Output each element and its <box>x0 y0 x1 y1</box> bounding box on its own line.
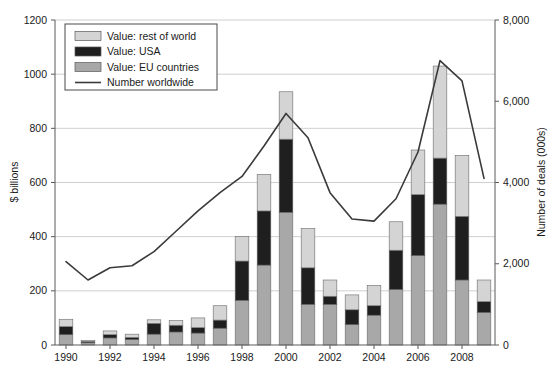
bar-segment <box>389 289 403 345</box>
bar-segment <box>279 212 293 345</box>
bar-segment <box>411 256 425 345</box>
bar-segment <box>367 285 381 305</box>
legend-label: Value: EU countries <box>107 61 199 73</box>
bar-segment <box>235 237 249 261</box>
bar-segment <box>257 211 271 265</box>
bar-segment <box>455 216 469 280</box>
bar-segment <box>389 222 403 250</box>
chart-container: 020040060080010001200 02,0004,0006,0008,… <box>0 0 560 373</box>
y-axis-right-title: Number of deals (000s) <box>535 127 547 237</box>
bar-segment <box>367 315 381 345</box>
legend-swatch <box>75 47 101 56</box>
bar-segment <box>191 318 205 328</box>
legend-swatch <box>75 32 101 41</box>
x-axis-tick-label: 2004 <box>362 351 386 363</box>
bar-segment <box>477 313 491 346</box>
x-axis-tick-label: 2000 <box>274 351 298 363</box>
bar-segment <box>103 335 117 338</box>
bar-segment <box>433 158 447 204</box>
bar-segment <box>169 332 183 345</box>
bar-segment <box>81 340 95 341</box>
bar-segment <box>433 204 447 345</box>
y-axis-left-tick-label: 1000 <box>24 68 48 80</box>
bar-segment <box>345 310 359 325</box>
x-axis-tick-label: 1998 <box>230 351 254 363</box>
x-axis-tick-label: 2002 <box>318 351 342 363</box>
y-axis-right-tick-label: 6,000 <box>503 95 529 107</box>
y-axis-left-tick-label: 0 <box>41 339 47 351</box>
y-axis-right-tick-label: 2,000 <box>503 257 529 269</box>
bar-segment <box>323 296 337 304</box>
legend-label: Number worldwide <box>107 76 194 88</box>
bar-segment <box>125 334 139 337</box>
bar-segment <box>59 327 73 335</box>
bar-segment <box>235 300 249 345</box>
bar-segment <box>213 306 227 320</box>
bar-segment <box>147 323 161 334</box>
bar-segment <box>389 250 403 289</box>
bar-segment <box>301 268 315 305</box>
bar-segment <box>147 320 161 324</box>
mna-stacked-bar-line-chart: 020040060080010001200 02,0004,0006,0008,… <box>0 0 560 373</box>
bar-segment <box>279 139 293 212</box>
y-axis-right-tick-label: 8,000 <box>503 14 529 26</box>
bar-segment <box>345 295 359 310</box>
bar-segment <box>367 306 381 315</box>
bar-segment <box>345 325 359 345</box>
bar-segment <box>213 320 227 328</box>
bar-segment <box>125 340 139 345</box>
x-axis-tick-label: 2006 <box>406 351 430 363</box>
bar-segment <box>191 333 205 345</box>
y-axis-right-tick-label: 4,000 <box>503 176 529 188</box>
x-axis-tick-label: 1994 <box>142 351 166 363</box>
bar-segment <box>323 304 337 345</box>
x-axis-tick-label: 2008 <box>450 351 474 363</box>
bar-segment <box>301 229 315 268</box>
bar-segment <box>213 328 227 345</box>
bar-segment <box>477 302 491 313</box>
chart-legend: Value: rest of worldValue: USAValue: EU … <box>65 24 217 90</box>
bar-segment <box>411 195 425 256</box>
bar-segment <box>257 265 271 345</box>
bar-segment <box>477 280 491 302</box>
bar-segment <box>103 338 117 345</box>
y-axis-left-tick-label: 1200 <box>24 14 48 26</box>
y-axis-left-tick-label: 200 <box>29 284 47 296</box>
y-axis-left-tick-label: 400 <box>29 230 47 242</box>
bar-segment <box>235 261 249 300</box>
y-axis-right-tick-label: 0 <box>503 339 509 351</box>
bar-segment <box>191 328 205 333</box>
bar-segment <box>455 280 469 345</box>
legend-swatch <box>75 63 101 72</box>
bar-segment <box>411 150 425 195</box>
legend-label: Value: USA <box>107 45 161 57</box>
x-axis-tick-label: 1992 <box>98 351 122 363</box>
bar-segment <box>59 335 73 345</box>
bar-segment <box>169 325 183 332</box>
bar-segment <box>103 331 117 335</box>
x-axis-tick-label: 1990 <box>54 351 78 363</box>
bar-segment <box>323 280 337 296</box>
bar-segment <box>455 155 469 216</box>
bar-segment <box>125 337 139 339</box>
bar-segment <box>169 321 183 326</box>
bar-segment <box>59 319 73 326</box>
bar-segment <box>301 304 315 345</box>
legend-label: Value: rest of world <box>107 30 196 42</box>
y-axis-left-title: $ billions <box>8 162 20 203</box>
x-axis-tick-label: 1996 <box>186 351 210 363</box>
bar-segment <box>147 334 161 345</box>
y-axis-left-tick-label: 800 <box>29 122 47 134</box>
y-axis-left-tick-label: 600 <box>29 176 47 188</box>
bar-segment <box>257 174 271 211</box>
bar-segment <box>279 92 293 139</box>
